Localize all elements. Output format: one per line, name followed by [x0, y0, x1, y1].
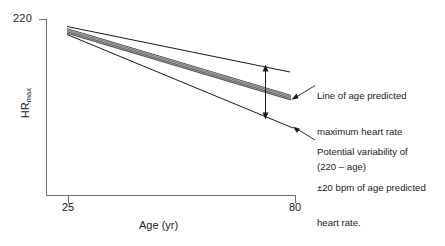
x-axis-tick-label-80: 80	[289, 201, 301, 214]
annotation-hrmax-line-1: Line of age predicted	[317, 90, 407, 102]
y-axis-title-subscript: max	[24, 88, 33, 102]
y-axis-title: HRmax	[19, 73, 33, 133]
annotation-variability-line-1: Potential variability of	[317, 146, 426, 158]
annotation-variability: Potential variability of ±20 bpm of age …	[317, 123, 426, 246]
x-axis-tick-label-25: 25	[62, 201, 74, 214]
annotation-variability-line-2: ±20 bpm of age predicted	[317, 182, 426, 194]
y-axis-tick-label-220: 220	[13, 12, 32, 25]
leader-line-hrmax	[292, 86, 316, 100]
annotation-variability-line-3: heart rate.	[317, 217, 426, 229]
leader-line-variability	[293, 127, 315, 140]
chart-figure: 220 HRmax 25 80 Age (yr) Line of age pre…	[0, 0, 445, 246]
series-hrmax-band	[67, 29, 291, 101]
y-axis-title-base: HR	[19, 102, 31, 118]
series-lower-bound	[67, 35, 293, 129]
x-axis-title: Age (yr)	[139, 219, 178, 232]
